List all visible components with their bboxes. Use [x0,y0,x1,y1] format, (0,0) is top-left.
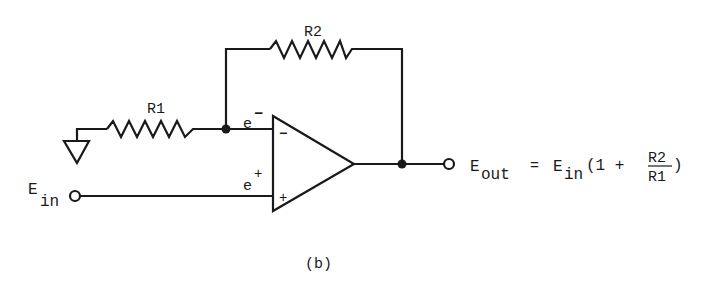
caption: (b) [305,256,332,273]
label-rhs-e: E [553,158,563,176]
input-terminal [70,191,80,201]
label-ein: E [28,181,38,199]
junction-dot-minus [222,125,231,134]
resistor-r1 [107,121,225,137]
label-r1: R1 [147,101,165,118]
opamp-plus-sign: + [279,190,287,206]
ground-icon [64,141,89,163]
label-paren-open: (1 + [586,157,624,175]
opamp-minus-sign: − [279,126,287,142]
label-e-plus: e [243,178,252,195]
junction-dot-output [398,160,407,169]
label-e-minus: e [243,116,252,133]
label-r2: R2 [304,24,322,41]
label-e-minus-sup: − [254,106,263,123]
label-eout-sub: out [481,166,510,184]
label-paren-close: ) [673,157,683,175]
resistor-r2 [270,41,403,58]
label-frac-den: R1 [648,169,666,186]
label-eout: E [470,158,480,176]
label-equals: = [530,158,539,175]
label-e-plus-sup: + [254,166,262,182]
circuit-diagram: R2 R1 e − e + − + E in E out = E in (1 +… [0,0,708,295]
wire-ground-r1 [77,129,107,141]
label-frac-num: R2 [648,150,666,167]
label-rhs-sub: in [564,166,583,184]
label-ein-sub: in [40,193,59,211]
output-terminal [444,159,454,169]
